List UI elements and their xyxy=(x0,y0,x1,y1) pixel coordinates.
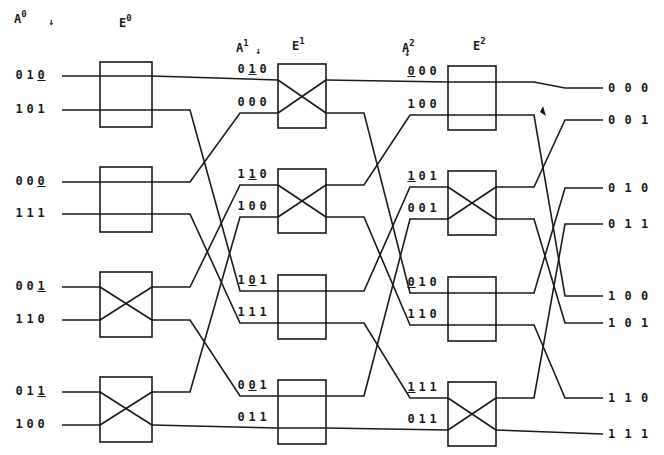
address-bit: 0 xyxy=(14,280,25,292)
address-bit: 1 xyxy=(258,306,269,318)
output-label: 0 1 1 xyxy=(608,218,649,230)
header-a1: A1 xyxy=(236,37,249,54)
address-bit: 0 xyxy=(258,96,269,108)
address-bit: 0 xyxy=(14,69,25,81)
stage0-input-label: 001 xyxy=(14,280,47,292)
omega-network-diagram xyxy=(0,0,664,455)
address-bit: 0 xyxy=(406,202,417,214)
address-bit: 0 xyxy=(36,313,47,325)
stage1-input-label: 001 xyxy=(236,379,269,391)
address-bit: 0 xyxy=(428,308,439,320)
address-bit: 1 xyxy=(236,200,247,212)
address-bit: 1 xyxy=(247,63,258,75)
address-bit: 1 xyxy=(258,274,269,286)
address-bit: 0 xyxy=(14,385,25,397)
address-bit: 1 xyxy=(36,103,47,115)
address-bit: 0 xyxy=(236,63,247,75)
address-bit: 0 xyxy=(236,411,247,423)
address-bit: 1 xyxy=(25,313,36,325)
address-bit: 0 xyxy=(428,98,439,110)
interconnect-wires xyxy=(62,76,603,434)
address-bit: 0 xyxy=(247,379,258,391)
output-label: 0 1 0 xyxy=(608,182,649,194)
address-bit: 0 xyxy=(247,274,258,286)
address-bit: 1 xyxy=(14,103,25,115)
switch-box xyxy=(100,377,152,442)
switch-box xyxy=(278,275,326,339)
direction-marks xyxy=(540,106,546,116)
stage2-input-label: 010 xyxy=(406,276,439,288)
address-bit: 0 xyxy=(258,168,269,180)
address-bit: 0 xyxy=(236,96,247,108)
address-bit: 1 xyxy=(406,381,417,393)
address-bit: 1 xyxy=(14,418,25,430)
stage1-input-label: 011 xyxy=(236,411,269,423)
address-bit: 1 xyxy=(428,202,439,214)
stage2-input-label: 101 xyxy=(406,170,439,182)
stage0-input-label: 101 xyxy=(14,103,47,115)
address-bit: 0 xyxy=(406,65,417,77)
switch-box xyxy=(278,380,326,444)
output-label: 0 0 1 xyxy=(608,114,649,126)
address-bit: 1 xyxy=(428,381,439,393)
stage2-input-label: 001 xyxy=(406,202,439,214)
stage2-input-label: 011 xyxy=(406,413,439,425)
address-bit: 1 xyxy=(247,168,258,180)
address-bit: 0 xyxy=(417,65,428,77)
output-label: 0 0 0 xyxy=(608,82,649,94)
address-bit: 0 xyxy=(236,379,247,391)
output-label: 1 0 0 xyxy=(608,290,649,302)
address-bit: 1 xyxy=(247,411,258,423)
address-bit: 0 xyxy=(406,276,417,288)
address-bit: 0 xyxy=(25,280,36,292)
stage1-input-label: 100 xyxy=(236,200,269,212)
address-bit: 0 xyxy=(25,418,36,430)
arrow-down-icon: ↓ xyxy=(48,17,54,27)
switch-box xyxy=(100,62,152,127)
address-bit: 0 xyxy=(25,103,36,115)
output-label: 1 1 1 xyxy=(608,428,649,440)
address-bit: 0 xyxy=(36,175,47,187)
switch-box xyxy=(448,277,496,341)
address-bit: 0 xyxy=(428,65,439,77)
switch-box xyxy=(448,66,496,130)
address-bit: 1 xyxy=(236,274,247,286)
address-bit: 0 xyxy=(25,175,36,187)
address-bit: 1 xyxy=(36,280,47,292)
address-bit: 1 xyxy=(406,98,417,110)
address-bit: 1 xyxy=(36,207,47,219)
arrow-down-icon: ↓ xyxy=(255,46,261,56)
header-e2: E2 xyxy=(473,35,486,52)
address-bit: 0 xyxy=(258,63,269,75)
address-bit: 1 xyxy=(247,306,258,318)
stage1-input-label: 110 xyxy=(236,168,269,180)
address-bit: 0 xyxy=(14,175,25,187)
address-bit: 1 xyxy=(417,381,428,393)
header-e1: E1 xyxy=(292,35,305,52)
address-bit: 0 xyxy=(247,200,258,212)
arrow-down-icon: ↓ xyxy=(404,48,410,58)
address-bit: 0 xyxy=(36,69,47,81)
stage2-input-label: 111 xyxy=(406,381,439,393)
stage1-input-label: 111 xyxy=(236,306,269,318)
address-bit: 0 xyxy=(417,202,428,214)
stage0-input-label: 000 xyxy=(14,175,47,187)
address-bit: 0 xyxy=(258,200,269,212)
address-bit: 0 xyxy=(247,96,258,108)
address-bit: 0 xyxy=(36,418,47,430)
header-e0: E0 xyxy=(119,12,132,29)
address-bit: 1 xyxy=(236,168,247,180)
arrowhead-icon xyxy=(540,106,546,116)
address-bit: 0 xyxy=(406,413,417,425)
address-bit: 1 xyxy=(14,313,25,325)
address-bit: 1 xyxy=(417,308,428,320)
output-label: 1 0 1 xyxy=(608,317,649,329)
address-bit: 1 xyxy=(14,207,25,219)
stage1-input-label: 101 xyxy=(236,274,269,286)
stage0-input-label: 111 xyxy=(14,207,47,219)
stage2-input-label: 110 xyxy=(406,308,439,320)
address-bit: 1 xyxy=(406,308,417,320)
address-bit: 1 xyxy=(428,413,439,425)
address-bit: 1 xyxy=(417,413,428,425)
address-bit: 1 xyxy=(236,306,247,318)
